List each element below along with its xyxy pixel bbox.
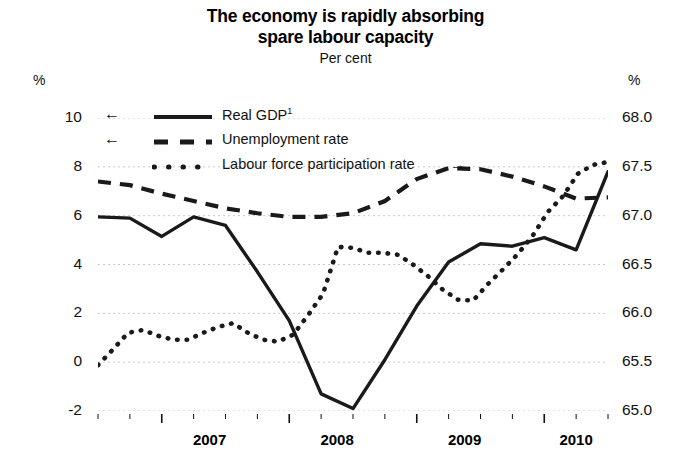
legend-arrow-right-icon: → bbox=[450, 156, 466, 174]
chart-title-line-2: spare labour capacity bbox=[0, 27, 691, 48]
right-axis-unit-label: % bbox=[628, 72, 640, 88]
legend-line-sample bbox=[152, 113, 214, 121]
legend-arrow-left-icon: ← bbox=[104, 129, 120, 149]
right-axis-tick-label: 68.0 bbox=[622, 108, 682, 126]
x-axis-tick-label: 2010 bbox=[541, 431, 611, 448]
chart-legend: ←Real GDP1←Unemployment rateLabour force… bbox=[104, 104, 524, 179]
right-axis-tick-label: 66.5 bbox=[622, 255, 682, 273]
legend-line-sample bbox=[152, 138, 214, 146]
left-axis-tick-label: -2 bbox=[42, 401, 82, 419]
legend-label-text: Labour force participation rate bbox=[222, 156, 415, 172]
chart-subtitle: Per cent bbox=[0, 49, 691, 67]
x-axis-tick-label: 2009 bbox=[430, 431, 500, 448]
x-axis-tick-label: 2008 bbox=[302, 431, 372, 448]
legend-item: Labour force participation rate→ bbox=[104, 154, 524, 179]
legend-label-text: Unemployment rate bbox=[222, 131, 349, 147]
right-axis-tick-label: 65.5 bbox=[622, 352, 682, 370]
left-axis-tick-label: 6 bbox=[42, 206, 82, 224]
legend-item: ←Unemployment rate bbox=[104, 129, 524, 154]
chart-figure: The economy is rapidly absorbing spare l… bbox=[0, 0, 691, 470]
legend-label: Unemployment rate bbox=[222, 131, 349, 147]
left-axis-unit-label: % bbox=[33, 72, 45, 88]
legend-label: Real GDP1 bbox=[222, 106, 292, 123]
legend-line-sample bbox=[152, 163, 214, 171]
left-axis-tick-label: 8 bbox=[42, 157, 82, 175]
right-axis-tick-label: 66.0 bbox=[622, 303, 682, 321]
right-axis-tick-label: 65.0 bbox=[622, 401, 682, 419]
right-axis-tick-label: 67.5 bbox=[622, 157, 682, 175]
series-labour-force-participation-rate bbox=[98, 162, 608, 365]
left-axis-tick-label: 10 bbox=[42, 108, 82, 126]
series-layer bbox=[98, 162, 608, 409]
left-axis-tick-label: 0 bbox=[42, 352, 82, 370]
left-axis-tick-label: 4 bbox=[42, 255, 82, 273]
title-block: The economy is rapidly absorbing spare l… bbox=[0, 6, 691, 67]
chart-title-line-1: The economy is rapidly absorbing bbox=[0, 6, 691, 27]
x-axis-tick-label: 2007 bbox=[175, 431, 245, 448]
series-real-gdp bbox=[98, 172, 608, 409]
legend-arrow-left-icon: ← bbox=[104, 104, 120, 124]
legend-item: ←Real GDP1 bbox=[104, 104, 524, 129]
left-axis-tick-label: 2 bbox=[42, 303, 82, 321]
legend-label: Labour force participation rate bbox=[222, 156, 415, 172]
right-axis-tick-label: 67.0 bbox=[622, 206, 682, 224]
legend-label-text: Real GDP bbox=[222, 107, 287, 123]
legend-footnote-marker: 1 bbox=[287, 106, 292, 116]
